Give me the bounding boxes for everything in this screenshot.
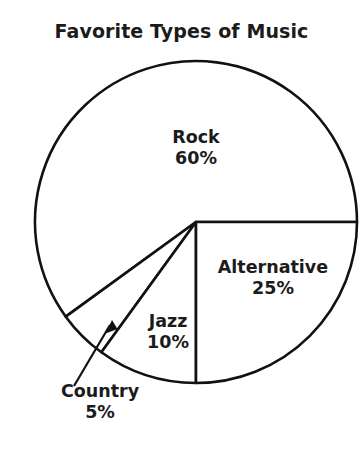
slice-label-alternative-name: Alternative	[199, 257, 347, 278]
slice-label-rock: Rock 60%	[126, 127, 266, 168]
slice-label-country: Country 5%	[30, 381, 170, 422]
slice-label-rock-name: Rock	[126, 127, 266, 148]
slice-label-rock-percent: 60%	[126, 148, 266, 169]
slice-label-jazz: Jazz 10%	[133, 311, 203, 352]
chart-canvas: Favorite Types of Music Rock 60% Alterna…	[0, 0, 363, 449]
slice-label-alternative-percent: 25%	[199, 278, 347, 299]
slice-label-jazz-percent: 10%	[133, 332, 203, 353]
slice-label-country-percent: 5%	[30, 402, 170, 423]
slice-label-jazz-name: Jazz	[133, 311, 203, 332]
slice-label-alternative: Alternative 25%	[199, 257, 347, 298]
slice-label-country-name: Country	[30, 381, 170, 402]
pie-slice-alternative[interactable]	[196, 222, 357, 383]
